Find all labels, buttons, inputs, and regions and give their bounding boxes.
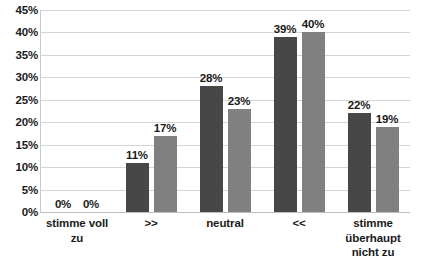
bar (200, 86, 223, 212)
bar-value-label: 23% (222, 95, 257, 107)
bar (376, 127, 399, 212)
x-category-label: neutral (188, 216, 262, 231)
y-tick-label: 10% (2, 161, 38, 173)
bar-value-label: 40% (296, 18, 331, 30)
y-tick-label: 0% (2, 206, 38, 218)
y-tick-label: 5% (2, 184, 38, 196)
bar-value-label: 11% (120, 149, 155, 161)
x-category-label-line: nicht zu (336, 245, 410, 260)
bar-value-label: 17% (148, 122, 183, 134)
bar-value-label: 22% (342, 99, 377, 111)
y-tick-label: 35% (2, 49, 38, 61)
x-category-label-line: überhaupt (336, 231, 410, 246)
y-tick-label: 25% (2, 94, 38, 106)
bar (228, 109, 251, 212)
gridline-45% (40, 10, 410, 11)
x-category-label: stimme vollzu (40, 216, 114, 245)
bar-chart: 0%5%10%15%20%25%30%35%40%45% 0%11%28%39%… (0, 0, 427, 271)
x-category-label: >> (114, 216, 188, 231)
x-category-label-line: stimme voll (40, 216, 114, 231)
x-category-label-line: stimme (336, 216, 410, 231)
x-axis-labels: stimme vollzu>>neutral<<stimmeüberhauptn… (40, 216, 410, 271)
bar (348, 113, 371, 212)
x-category-label: << (262, 216, 336, 231)
x-category-label-line: >> (114, 216, 188, 231)
bar (302, 32, 325, 212)
y-tick-label: 30% (2, 71, 38, 83)
gridline-0% (40, 212, 410, 213)
gridline-40% (40, 32, 410, 33)
y-tick-label: 40% (2, 26, 38, 38)
gridline-35% (40, 55, 410, 56)
bar-value-label: 0% (74, 198, 109, 210)
y-axis-labels: 0%5%10%15%20%25%30%35%40%45% (0, 0, 38, 271)
y-tick-label: 20% (2, 116, 38, 128)
x-category-label-line: neutral (188, 216, 262, 231)
x-category-label: stimmeüberhauptnicht zu (336, 216, 410, 260)
bar-value-label: 28% (194, 72, 229, 84)
x-category-label-line: zu (40, 231, 114, 246)
x-category-label-line: << (262, 216, 336, 231)
bar (126, 163, 149, 212)
bar (154, 136, 177, 212)
bar-value-label: 19% (370, 113, 405, 125)
y-tick-label: 15% (2, 139, 38, 151)
bar (274, 37, 297, 212)
plot-area: 0%11%28%39%22%0%17%23%40%19% (40, 10, 410, 212)
y-tick-label: 45% (2, 4, 38, 16)
